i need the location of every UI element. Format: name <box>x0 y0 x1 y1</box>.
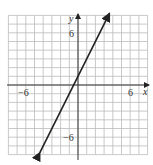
line-graph <box>40 14 110 153</box>
y-tick-6: 6 <box>69 28 74 39</box>
x-axis-label: x <box>142 86 148 97</box>
x-tick-neg6: −6 <box>18 87 29 98</box>
x-tick-6: 6 <box>128 87 133 98</box>
y-axis-label: y <box>68 13 74 24</box>
y-tick-neg6: −6 <box>63 132 74 143</box>
coordinate-plane: y x −6 6 6 −6 <box>0 0 153 165</box>
